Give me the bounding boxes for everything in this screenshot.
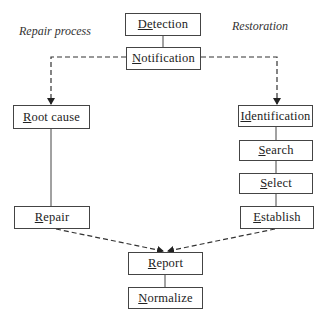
section-label-repair-process: Repair process bbox=[19, 24, 91, 39]
node-root-cause: Root cause bbox=[13, 105, 90, 129]
edge-notification-root-cause bbox=[51, 57, 126, 104]
node-identification: Identification bbox=[238, 105, 313, 127]
node-select: Select bbox=[239, 173, 313, 194]
edge-repair-report bbox=[56, 229, 163, 251]
node-notification: Notification bbox=[126, 47, 201, 70]
edge-notification-identification bbox=[201, 57, 277, 104]
node-search: Search bbox=[239, 140, 313, 161]
edge-establish-report bbox=[168, 229, 275, 251]
node-normalize: Normalize bbox=[128, 287, 203, 309]
node-report: Report bbox=[128, 252, 203, 275]
section-label-restoration: Restoration bbox=[232, 19, 288, 34]
node-detection: Detection bbox=[125, 13, 201, 36]
node-repair: Repair bbox=[14, 206, 90, 229]
node-establish: Establish bbox=[240, 206, 314, 229]
